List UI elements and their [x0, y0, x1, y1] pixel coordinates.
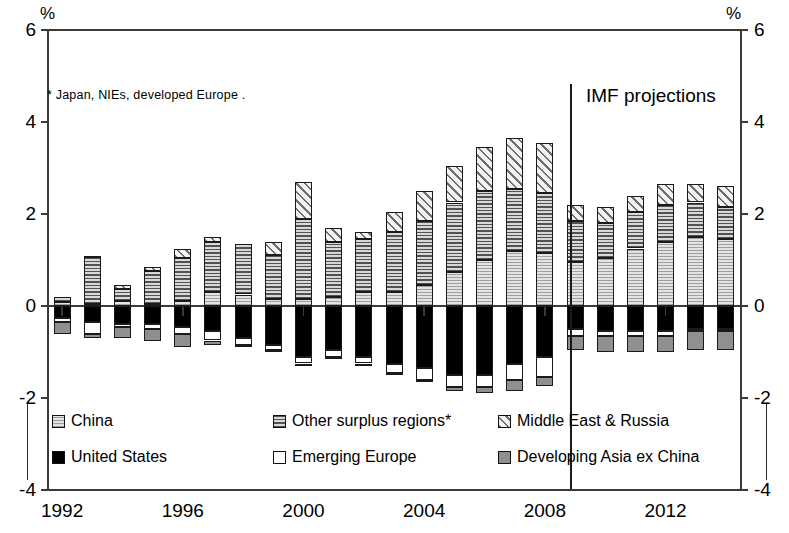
chart-root: % % IMF projections * Japan, NIEs, devel… [0, 0, 789, 533]
bar-segment-united_states-2003 [386, 306, 403, 364]
bar-segment-united_states-2002 [355, 306, 372, 357]
bar-segment-other-1995 [144, 271, 161, 304]
bar-segment-china-2010 [597, 258, 614, 306]
x-axis-label-2000: 2000 [282, 500, 324, 522]
bar-segment-developing_asia-1993 [84, 334, 101, 339]
bar-segment-emerging_europe-1993 [84, 322, 101, 334]
x-tick [61, 307, 63, 316]
bar-segment-middle_east_russia-2006 [476, 147, 493, 191]
y-tick-right [740, 489, 748, 491]
bar-segment-emerging_europe-2005 [446, 375, 463, 387]
legend-item-middle-east-russia: Middle East & Russia [498, 412, 669, 430]
bar-segment-middle_east_russia-2014 [717, 186, 734, 207]
bar-segment-china-1999 [265, 299, 282, 306]
legend-label-middle-east-russia: Middle East & Russia [517, 412, 669, 430]
bar-segment-developing_asia-1992 [54, 322, 71, 334]
bar-segment-united_states-2014 [717, 306, 734, 329]
bar-segment-other-2006 [476, 191, 493, 260]
bar-segment-developing_asia-2003 [386, 373, 403, 375]
legend-label-developing-asia: Developing Asia ex China [517, 448, 699, 466]
bar-segment-middle_east_russia-1999 [265, 242, 282, 256]
bar-segment-other-2008 [536, 193, 553, 253]
x-axis-label-1996: 1996 [162, 500, 204, 522]
bar-segment-developing_asia-1997 [204, 341, 221, 346]
bar-segment-united_states-2011 [627, 306, 644, 331]
y-axis-label-left: -4 [2, 480, 36, 499]
y-axis-label-right: 0 [754, 296, 765, 315]
bar-segment-united_states-2007 [506, 306, 523, 364]
bar-segment-united_states-1995 [144, 306, 161, 324]
legend-swatch-middle-east-russia-icon [498, 415, 511, 428]
bar-segment-middle_east_russia-2005 [446, 166, 463, 203]
bar-segment-united_states-1998 [235, 306, 252, 338]
y-tick-left [41, 29, 49, 31]
x-axis-label-2004: 2004 [403, 500, 445, 522]
bar-segment-developing_asia-1995 [144, 329, 161, 341]
bar-segment-united_states-2013 [687, 306, 704, 329]
bar-segment-other-2012 [657, 205, 674, 242]
y-tick-right [740, 305, 748, 307]
bar-segment-middle_east_russia-2004 [416, 191, 433, 221]
bar-segment-other-1994 [114, 289, 131, 302]
y-tick-right [740, 121, 748, 123]
x-tick [665, 307, 667, 316]
y-axis-label-right: 6 [754, 20, 765, 39]
y-tick-left [41, 121, 49, 123]
bar-segment-other-2014 [717, 207, 734, 239]
legend-item-united-states: United States [52, 448, 167, 466]
y-axis-unit-right: % [726, 4, 741, 24]
y-axis-label-left: 4 [2, 112, 36, 131]
bar-segment-other-1996 [174, 258, 191, 302]
y-axis-label-left: 6 [2, 20, 36, 39]
legend-swatch-other-surplus-icon [273, 415, 286, 428]
bar-segment-china-2011 [627, 249, 644, 307]
bar-segment-emerging_europe-2000 [295, 357, 312, 364]
bar-segment-developing_asia-1996 [174, 334, 191, 348]
bar-segment-china-2006 [476, 260, 493, 306]
bar-segment-united_states-1999 [265, 306, 282, 345]
y-tick-left [41, 489, 49, 491]
bar-segment-developing_asia-2012 [657, 336, 674, 352]
bar-segment-emerging_europe-2004 [416, 368, 433, 380]
y-tick-left [41, 213, 49, 215]
x-axis-label-2008: 2008 [524, 500, 566, 522]
legend-item-developing-asia: Developing Asia ex China [498, 448, 699, 466]
legend-item-emerging-europe: Emerging Europe [273, 448, 417, 466]
bar-segment-developing_asia-2005 [446, 387, 463, 392]
bar-segment-middle_east_russia-1997 [204, 237, 221, 242]
y-axis-label-left: 2 [2, 204, 36, 223]
bar-segment-middle_east_russia-2010 [597, 207, 614, 223]
bar-segment-united_states-2010 [597, 306, 614, 331]
bar-segment-other-2005 [446, 203, 463, 272]
bar-segment-china-2005 [446, 272, 463, 307]
bar-segment-china-2002 [355, 292, 372, 306]
bar-segment-emerging_europe-2003 [386, 364, 403, 373]
bar-segment-developing_asia-2001 [325, 357, 342, 359]
bar-segment-middle_east_russia-2011 [627, 196, 644, 212]
bar-segment-emerging_europe-1996 [174, 327, 191, 334]
legend-item-china: China [52, 412, 113, 430]
bar-segment-china-2008 [536, 253, 553, 306]
bar-segment-china-1998 [235, 295, 252, 307]
x-tick [303, 307, 305, 316]
legend-label-emerging-europe: Emerging Europe [292, 448, 417, 466]
x-tick [182, 307, 184, 316]
bar-segment-middle_east_russia-2000 [295, 182, 312, 219]
bar-segment-china-2007 [506, 251, 523, 306]
legend-label-other-surplus: Other surplus regions* [292, 412, 451, 430]
bar-segment-other-2010 [597, 223, 614, 258]
bar-segment-other-2001 [325, 242, 342, 297]
x-tick [423, 307, 425, 316]
y-axis-label-right: 4 [754, 112, 765, 131]
x-axis-label-1992: 1992 [41, 500, 83, 522]
bar-segment-middle_east_russia-1996 [174, 249, 191, 258]
bar-segment-middle_east_russia-2013 [687, 184, 704, 202]
legend-item-other-surplus: Other surplus regions* [273, 412, 451, 430]
bar-segment-developing_asia-1998 [235, 345, 252, 347]
bar-segment-united_states-2001 [325, 306, 342, 350]
bar-segment-developing_asia-2006 [476, 387, 493, 394]
legend: China United States Other surplus region… [27, 404, 767, 480]
bar-segment-united_states-2006 [476, 306, 493, 375]
bar-segment-china-2004 [416, 285, 433, 306]
y-tick-left [41, 305, 49, 307]
